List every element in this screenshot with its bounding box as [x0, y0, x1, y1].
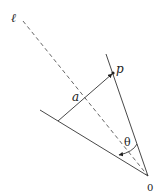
perpendicular-a [58, 74, 112, 121]
dashed-line-l [23, 21, 148, 176]
point-p [111, 71, 114, 74]
label-origin: 0 [147, 182, 153, 193]
lower-line [40, 110, 148, 176]
label-line-l: ℓ [11, 11, 16, 25]
label-angle-theta: θ [124, 136, 131, 149]
label-point-p: p [116, 62, 124, 76]
diagram-canvas: ℓ p a θ 0 [0, 0, 163, 196]
label-distance-a: a [72, 90, 79, 104]
